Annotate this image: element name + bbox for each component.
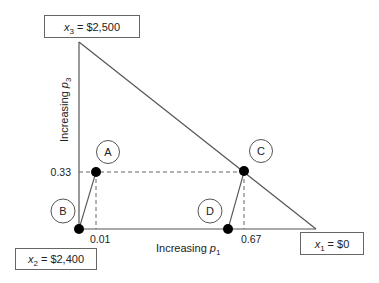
box-x3: x3= $2,500 (45, 16, 140, 38)
box-x1: x1= $0 (301, 233, 364, 255)
horizontal-axis-label: Increasing p1 (156, 242, 221, 257)
tick-label-001: 0.01 (90, 233, 111, 245)
vertical-axis-label: Increasing p3 (58, 77, 73, 142)
label-b: B (51, 199, 75, 223)
line-d-c (228, 172, 244, 229)
box-x2: x2= $2,400 (16, 249, 97, 270)
point-b (74, 224, 84, 234)
label-d: D (198, 199, 222, 223)
svg-text:B: B (59, 205, 66, 217)
svg-text:A: A (104, 146, 112, 158)
line-b-a (79, 172, 96, 229)
point-c (239, 166, 249, 176)
point-d (223, 224, 233, 234)
tick-label-067: 0.67 (241, 233, 262, 245)
svg-text:D: D (206, 205, 214, 217)
point-a (91, 167, 101, 177)
label-a: A (97, 141, 120, 164)
hypotenuse (79, 42, 316, 229)
label-c: C (250, 140, 273, 163)
svg-text:C: C (257, 145, 265, 157)
probability-triangle-diagram: A B C D 0.33 0.01 0.67 Increasing p1 Inc… (0, 0, 379, 283)
tick-label-033: 0.33 (51, 166, 72, 178)
